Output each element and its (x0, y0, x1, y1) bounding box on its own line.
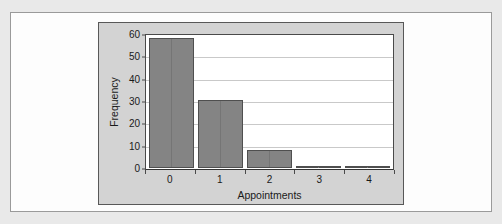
x-tick-mark (294, 170, 295, 174)
bar-slot (343, 36, 392, 168)
x-tick-label: 4 (344, 175, 394, 185)
x-tick-label: 0 (145, 175, 195, 185)
bar-series (147, 36, 392, 168)
x-axis-labels: 01234 (145, 175, 394, 185)
y-tick-mark (142, 146, 146, 147)
bar (149, 38, 194, 168)
x-tick-label: 3 (294, 175, 344, 185)
y-tick-label: 20 (129, 119, 140, 129)
bar (247, 150, 292, 168)
y-tick-label: 10 (129, 142, 140, 152)
x-tick-mark (245, 170, 246, 174)
bar-slot (196, 36, 245, 168)
y-tick-mark (142, 57, 146, 58)
bar (296, 166, 341, 168)
y-tick-label: 50 (129, 52, 140, 62)
y-tick-mark (142, 79, 146, 80)
y-tick-label: 60 (129, 30, 140, 40)
y-tick-mark (142, 35, 146, 36)
y-tick-mark (142, 102, 146, 103)
x-tick-mark (145, 170, 146, 174)
figure-card: Frequency 0102030405060 01234 Appointmen… (10, 12, 492, 212)
y-tick-label: 30 (129, 97, 140, 107)
bar (198, 100, 243, 168)
x-tick-label: 2 (245, 175, 295, 185)
bar (345, 166, 390, 168)
x-tick-mark (344, 170, 345, 174)
bar-slot (294, 36, 343, 168)
bar-slot (147, 36, 196, 168)
bar-slot (245, 36, 294, 168)
y-tick-label: 0 (134, 164, 140, 174)
x-tick-mark (394, 170, 395, 174)
x-tick-label: 1 (195, 175, 245, 185)
x-axis-title: Appointments (145, 189, 394, 201)
plot-area: 0102030405060 (145, 34, 394, 170)
y-tick-label: 40 (129, 75, 140, 85)
x-tick-mark (195, 170, 196, 174)
chart-panel: Frequency 0102030405060 01234 Appointmen… (98, 22, 404, 205)
y-tick-mark (142, 124, 146, 125)
plot-wrapper: 0102030405060 01234 Appointments (99, 23, 403, 204)
